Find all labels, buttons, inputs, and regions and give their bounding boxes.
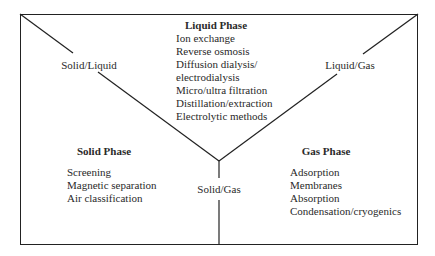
- liquid-phase-title: Liquid Phase: [185, 19, 247, 32]
- solid-phase-methods: Screening Magnetic separation Air classi…: [67, 166, 157, 205]
- list-item: Ion exchange: [176, 32, 273, 45]
- solid-gas-label: Solid/Gas: [197, 183, 240, 196]
- list-item: Membranes: [290, 179, 401, 192]
- list-item: Condensation/cryogenics: [290, 205, 401, 218]
- list-item: Micro/ultra filtration: [176, 84, 273, 97]
- list-item: Magnetic separation: [67, 179, 157, 192]
- list-item: Reverse osmosis: [176, 45, 273, 58]
- list-item: Air classification: [67, 192, 157, 205]
- list-item: Screening: [67, 166, 157, 179]
- solid-phase-title: Solid Phase: [77, 145, 131, 158]
- list-item: Absorption: [290, 192, 401, 205]
- list-item: Adsorption: [290, 166, 401, 179]
- liquid-gas-label: Liquid/Gas: [325, 59, 375, 72]
- list-item: electrodialysis: [176, 71, 273, 84]
- solid-liquid-boundary-upper: [20, 14, 73, 53]
- list-item: Electrolytic methods: [176, 110, 273, 123]
- list-item: Diffusion dialysis/: [176, 58, 273, 71]
- gas-phase-methods: Adsorption Membranes Absorption Condensa…: [290, 166, 401, 218]
- solid-liquid-label: Solid/Liquid: [61, 59, 117, 72]
- gas-phase-title: Gas Phase: [302, 145, 351, 158]
- list-item: Distillation/extraction: [176, 97, 273, 110]
- liquid-gas-boundary-upper: [363, 14, 418, 54]
- liquid-phase-methods: Ion exchange Reverse osmosis Diffusion d…: [176, 32, 273, 123]
